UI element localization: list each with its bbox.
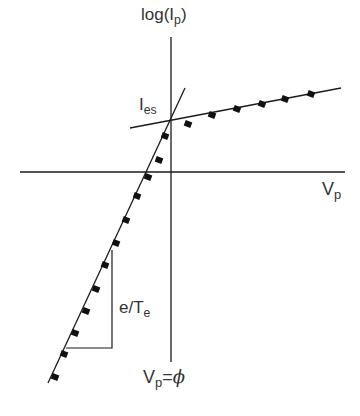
data-point-marker — [155, 156, 164, 164]
data-point-marker — [60, 350, 69, 358]
y-axis-label: log(Ip) — [141, 5, 187, 27]
data-point-marker — [184, 120, 193, 128]
data-point-marker — [307, 90, 316, 98]
iv-characteristic-diagram — [0, 0, 360, 416]
data-point-marker — [281, 95, 290, 103]
saturation-current-label: Ies — [139, 95, 157, 117]
slope-label: e/Te — [119, 298, 150, 320]
data-point-marker — [233, 105, 242, 113]
data-point-marker — [258, 100, 267, 108]
retarding-fit-line — [48, 88, 185, 383]
data-point-marker — [112, 239, 121, 247]
plasma-potential-label: Vp=ϕ — [143, 366, 185, 390]
data-markers — [51, 90, 316, 381]
x-axis-label: Vp — [322, 179, 341, 202]
